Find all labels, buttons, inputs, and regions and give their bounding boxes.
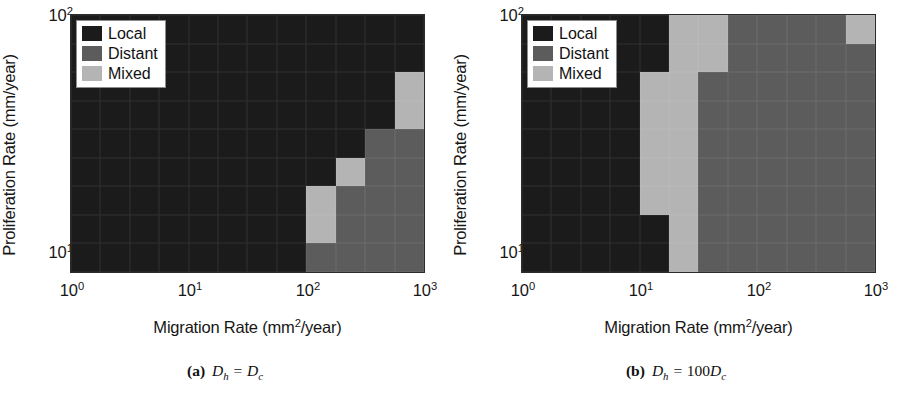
x-tick-b-2: 102 [729,281,789,300]
y-tick-a-0: 102 [31,6,73,25]
panel-b: Proliferation Rate (mm/year) 102 101 Loc… [451,0,901,415]
heatmap-cell [728,15,757,44]
heatmap-cell [728,243,757,272]
heatmap-cell [336,15,365,44]
x-axis-label-b: Migration Rate (mm2/year) [521,318,876,337]
heatmap-cell [100,243,129,272]
heatmap-cell [640,72,669,101]
heatmap-cell [846,158,875,187]
heatmap-cell [306,215,335,244]
heatmap-cell [698,44,727,73]
heatmap-cell [71,129,100,158]
heatmap-cell [277,101,306,130]
heatmap-cell [218,215,247,244]
heatmap-cell [522,243,551,272]
legend-row-distant: Distant [533,44,609,63]
heatmap-cell [395,186,424,215]
panel-a: Proliferation Rate (mm/year) 102 101 Loc… [0,0,450,415]
heatmap-cell [306,158,335,187]
heatmap-cell [100,215,129,244]
heatmap-cell [846,129,875,158]
heatmap-cell [728,186,757,215]
heatmap-cell [159,101,188,130]
heatmap-cell [698,243,727,272]
heatmap-cell [306,186,335,215]
heatmap-cell [757,129,786,158]
heatmap-cell [551,101,580,130]
heatmap-cell [669,186,698,215]
heatmap-cell [189,243,218,272]
heatmap-cell [100,158,129,187]
heatmap-cell [787,129,816,158]
legend-row-local: Local [82,24,158,43]
legend-label-distant: Distant [108,46,158,62]
heatmap-cell [640,186,669,215]
heatmap-cell [669,129,698,158]
legend-swatch-local-icon [82,26,102,41]
heatmap-cell [610,243,639,272]
legend-swatch-distant-icon [533,46,553,61]
heatmap-cell [277,129,306,158]
heatmap-cell [816,101,845,130]
heatmap-cell [71,243,100,272]
heatmap-cell [247,243,276,272]
heatmap-cell [306,101,335,130]
heatmap-cell [130,243,159,272]
heatmap-cell [247,215,276,244]
heatmap-cell [757,215,786,244]
heatmap-cell [189,129,218,158]
heatmap-cell [277,44,306,73]
caption-a: (a)Dh = Dc [0,362,450,380]
legend-b: LocalDistantMixed [527,20,617,88]
heatmap-cell [189,186,218,215]
heatmap-cell [757,186,786,215]
caption-b-formula: Dh = 100Dc [652,362,726,379]
heatmap-cell [522,215,551,244]
heatmap-cell [130,186,159,215]
heatmap-cell [159,215,188,244]
caption-a-formula: Dh = Dc [212,362,263,379]
heatmap-cell [846,186,875,215]
heatmap-cell [336,158,365,187]
heatmap-cell [551,215,580,244]
heatmap-cell [336,101,365,130]
heatmap-cell [846,44,875,73]
heatmap-cell [787,215,816,244]
heatmap-cell [640,158,669,187]
legend-label-local: Local [108,26,146,42]
legend-row-mixed: Mixed [533,64,609,83]
heatmap-cell [669,101,698,130]
caption-a-tag: (a) [187,362,205,379]
heatmap-cell [698,158,727,187]
heatmap-cell [218,101,247,130]
heatmap-cell [728,158,757,187]
heatmap-cell [787,101,816,130]
x-tick-a-2: 102 [278,281,338,300]
heatmap-cell [218,129,247,158]
heatmap-cell [218,15,247,44]
heatmap-cell [395,243,424,272]
heatmap-cell [306,44,335,73]
heatmap-cell [218,72,247,101]
heatmap-cell [728,101,757,130]
legend-row-local: Local [533,24,609,43]
heatmap-cell [669,215,698,244]
heatmap-cell [218,158,247,187]
heatmap-cell [669,243,698,272]
heatmap-cell [247,101,276,130]
heatmap-cell [189,158,218,187]
y-axis-label-b: Proliferation Rate (mm/year) [451,0,473,36]
heatmap-cell [130,158,159,187]
x-axis-label-a: Migration Rate (mm2/year) [70,318,425,337]
heatmap-cell [728,215,757,244]
heatmap-cell [640,44,669,73]
x-tick-a-0: 100 [42,281,102,300]
heatmap-cell [395,101,424,130]
heatmap-cell [218,44,247,73]
heatmap-cell [846,15,875,44]
heatmap-cell [698,15,727,44]
heatmap-cell [100,129,129,158]
heatmap-cell [189,215,218,244]
heatmap-cell [640,243,669,272]
heatmap-cell [610,215,639,244]
